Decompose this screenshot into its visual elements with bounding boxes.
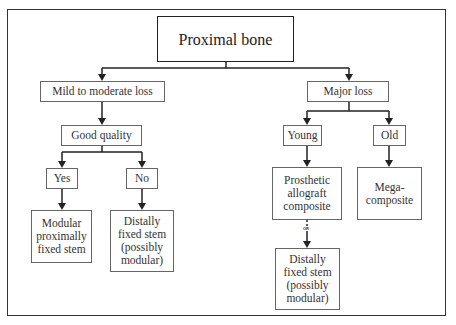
node-label: Modular proximally fixed stem xyxy=(36,217,86,256)
node-proximal-bone: Proximal bone xyxy=(157,16,294,62)
node-prosthetic-allograft-composite: Prosthetic allograft composite xyxy=(272,167,342,220)
node-no: No xyxy=(126,168,158,189)
node-label: Prosthetic allograft composite xyxy=(283,174,330,213)
node-modular-proximally-fixed-stem: Modular proximally fixed stem xyxy=(31,210,92,263)
node-old: Old xyxy=(373,125,406,146)
node-label: Distally fixed stem (possibly modular) xyxy=(283,253,331,305)
node-label: Old xyxy=(381,129,398,142)
node-label: No xyxy=(135,172,149,185)
node-young: Young xyxy=(283,125,322,146)
node-mega-composite: Mega- composite xyxy=(357,167,422,220)
node-label: Proximal bone xyxy=(179,33,273,46)
node-mild-to-moderate-loss: Mild to moderate loss xyxy=(40,81,165,102)
node-label: Yes xyxy=(54,172,71,185)
node-label: Mega- composite xyxy=(366,181,413,207)
node-label: Major loss xyxy=(324,85,373,98)
node-label: Young xyxy=(287,129,317,142)
node-yes: Yes xyxy=(46,168,78,189)
node-distally-fixed-stem-right: Distally fixed stem (possibly modular) xyxy=(275,248,340,310)
node-good-quality: Good quality xyxy=(61,125,142,146)
node-label: Mild to moderate loss xyxy=(52,85,153,98)
node-distally-fixed-stem-left: Distally fixed stem (possibly modular) xyxy=(110,210,174,272)
or-connector-label: OR xyxy=(303,226,309,231)
node-label: Distally fixed stem (possibly modular) xyxy=(118,215,166,267)
node-label: Good quality xyxy=(71,129,131,142)
node-major-loss: Major loss xyxy=(307,81,389,102)
